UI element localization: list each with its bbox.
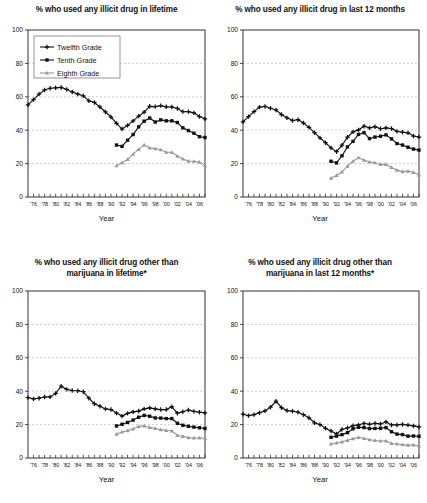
svg-text:'78: '78: [256, 462, 263, 468]
svg-text:'84: '84: [289, 201, 296, 207]
svg-text:'96: '96: [355, 201, 362, 207]
svg-text:0: 0: [19, 193, 23, 200]
svg-text:'06: '06: [410, 201, 417, 207]
svg-text:'76: '76: [245, 201, 252, 207]
svg-text:'06: '06: [196, 462, 203, 468]
svg-text:80: 80: [16, 321, 24, 328]
svg-text:20: 20: [16, 421, 24, 428]
svg-text:'98: '98: [152, 462, 159, 468]
svg-text:100: 100: [227, 26, 238, 33]
svg-text:'96: '96: [141, 462, 148, 468]
svg-text:'88: '88: [96, 201, 103, 207]
svg-text:20: 20: [16, 160, 24, 167]
svg-text:'02: '02: [174, 201, 181, 207]
svg-text:60: 60: [16, 93, 24, 100]
svg-text:'94: '94: [130, 201, 137, 207]
svg-text:'84: '84: [74, 201, 81, 207]
svg-text:40: 40: [231, 388, 239, 395]
svg-text:'92: '92: [333, 201, 340, 207]
panel-other-than-marijuana-lifetime: % who used any illicit drug other than m…: [0, 253, 213, 503]
svg-text:'86: '86: [300, 462, 307, 468]
svg-text:'90: '90: [108, 462, 115, 468]
svg-text:'92: '92: [119, 201, 126, 207]
svg-text:'02: '02: [388, 462, 395, 468]
svg-text:Tenth Grade: Tenth Grade: [57, 56, 97, 65]
svg-text:'76: '76: [30, 462, 37, 468]
svg-text:'86: '86: [85, 201, 92, 207]
svg-text:80: 80: [16, 60, 24, 67]
svg-text:'00: '00: [163, 462, 170, 468]
svg-text:'96: '96: [355, 462, 362, 468]
svg-text:'80: '80: [52, 462, 59, 468]
svg-text:'90: '90: [322, 462, 329, 468]
svg-text:60: 60: [231, 93, 239, 100]
svg-text:'94: '94: [130, 462, 137, 468]
svg-text:'84: '84: [289, 462, 296, 468]
svg-text:0: 0: [234, 193, 238, 200]
svg-text:'80: '80: [267, 462, 274, 468]
panel-other-than-marijuana-12months: % who used any illicit drug other than m…: [213, 253, 427, 503]
svg-text:'90: '90: [322, 201, 329, 207]
svg-text:'92: '92: [119, 462, 126, 468]
chart-svg: 020406080100'76'78'80'82'84'86'88'90'92'…: [213, 253, 427, 503]
svg-text:40: 40: [16, 127, 24, 134]
chart-grid: % who used any illicit drug in lifetime …: [0, 0, 427, 503]
plot-area: 020406080100'76'78'80'82'84'86'88'90'92'…: [0, 253, 213, 503]
svg-text:'80: '80: [52, 201, 59, 207]
svg-text:'78: '78: [41, 462, 48, 468]
svg-text:'00: '00: [377, 201, 384, 207]
svg-text:'82: '82: [278, 462, 285, 468]
svg-text:'02: '02: [388, 201, 395, 207]
svg-text:100: 100: [227, 287, 238, 294]
svg-text:'98: '98: [152, 201, 159, 207]
svg-text:'88: '88: [311, 201, 318, 207]
svg-text:80: 80: [231, 60, 239, 67]
svg-text:'96: '96: [141, 201, 148, 207]
x-axis-label: Year: [0, 214, 213, 223]
svg-text:Eighth Grade: Eighth Grade: [57, 69, 99, 78]
svg-text:'90: '90: [108, 201, 115, 207]
plot-area: 020406080100'76'78'80'82'84'86'88'90'92'…: [213, 253, 427, 503]
svg-text:'00: '00: [163, 201, 170, 207]
svg-text:'84: '84: [74, 462, 81, 468]
svg-text:'94: '94: [344, 201, 351, 207]
svg-text:'00: '00: [377, 462, 384, 468]
svg-text:'78: '78: [41, 201, 48, 207]
svg-text:'88: '88: [96, 462, 103, 468]
svg-text:60: 60: [231, 354, 239, 361]
svg-text:'98: '98: [366, 201, 373, 207]
svg-text:100: 100: [12, 26, 23, 33]
svg-text:'04: '04: [399, 201, 406, 207]
panel-illicit-lifetime: % who used any illicit drug in lifetime …: [0, 0, 213, 253]
svg-text:'86: '86: [85, 462, 92, 468]
x-axis-label: Year: [213, 214, 427, 223]
svg-text:40: 40: [231, 127, 239, 134]
svg-text:0: 0: [234, 454, 238, 461]
svg-text:100: 100: [12, 287, 23, 294]
svg-text:'02: '02: [174, 462, 181, 468]
svg-text:'86: '86: [300, 201, 307, 207]
svg-text:'82: '82: [278, 201, 285, 207]
svg-text:'78: '78: [256, 201, 263, 207]
svg-text:80: 80: [231, 321, 239, 328]
svg-text:40: 40: [16, 388, 24, 395]
svg-text:'04: '04: [185, 462, 192, 468]
svg-text:'76: '76: [30, 201, 37, 207]
svg-text:'06: '06: [410, 462, 417, 468]
x-axis-label: Year: [0, 475, 213, 484]
svg-text:'92: '92: [333, 462, 340, 468]
svg-text:'04: '04: [399, 462, 406, 468]
svg-text:20: 20: [231, 421, 239, 428]
svg-text:'04: '04: [185, 201, 192, 207]
svg-text:'82: '82: [63, 462, 70, 468]
svg-text:'94: '94: [344, 462, 351, 468]
svg-text:0: 0: [19, 454, 23, 461]
x-axis-label: Year: [213, 475, 427, 484]
svg-text:'88: '88: [311, 462, 318, 468]
svg-text:20: 20: [231, 160, 239, 167]
svg-text:'98: '98: [366, 462, 373, 468]
chart-svg: 020406080100'76'78'80'82'84'86'88'90'92'…: [0, 253, 213, 503]
svg-text:60: 60: [16, 354, 24, 361]
svg-text:'76: '76: [245, 462, 252, 468]
svg-text:'80: '80: [267, 201, 274, 207]
